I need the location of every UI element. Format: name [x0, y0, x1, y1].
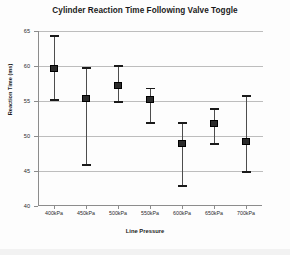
whisker-line: [246, 96, 247, 172]
x-axis-tick-mark: [246, 206, 247, 209]
gridline: [39, 66, 263, 67]
whisker-cap-upper: [146, 88, 155, 90]
whisker-cap-lower: [178, 185, 187, 187]
whisker-line: [150, 88, 151, 122]
whisker-line: [182, 123, 183, 186]
whisker-cap-lower: [114, 101, 123, 103]
whisker-cap-lower: [210, 143, 219, 145]
x-axis-tick-mark: [182, 206, 183, 209]
y-axis-tick-mark: [34, 31, 38, 32]
x-axis-tick-label: 700kPa: [226, 210, 266, 217]
whisker-cap-upper: [114, 65, 123, 67]
y-axis-tick-mark: [34, 101, 38, 102]
chart-title: Cylinder Reaction Time Following Valve T…: [0, 6, 290, 16]
gridline: [39, 31, 263, 32]
x-axis-tick-mark: [54, 206, 55, 209]
x-axis-tick-mark: [118, 206, 119, 209]
whisker-cap-lower: [242, 171, 251, 173]
data-marker: [178, 140, 185, 147]
data-marker: [146, 96, 153, 103]
y-axis-tick-label: 50: [4, 133, 30, 139]
y-axis-tick-label: 55: [4, 98, 30, 104]
whisker-cap-lower: [146, 122, 155, 124]
x-axis-tick-mark: [214, 206, 215, 209]
whisker-cap-upper: [50, 35, 59, 37]
y-axis-tick-mark: [34, 66, 38, 67]
whisker-cap-upper: [178, 122, 187, 124]
data-marker: [210, 120, 217, 127]
y-axis-tick-label: 65: [4, 28, 30, 34]
whisker-cap-upper: [242, 95, 251, 97]
y-axis-tick-label: 45: [4, 168, 30, 174]
data-marker: [114, 82, 121, 89]
whisker-cap-lower: [50, 99, 59, 101]
y-axis-tick-mark: [34, 136, 38, 137]
x-axis-tick-mark: [150, 206, 151, 209]
whisker-cap-lower: [82, 164, 91, 166]
gridline: [39, 136, 263, 137]
data-marker: [50, 65, 57, 72]
x-axis-tick-mark: [86, 206, 87, 209]
page-edge-artifact: [0, 249, 290, 255]
whisker-cap-upper: [210, 108, 219, 110]
y-axis-tick-mark: [34, 171, 38, 172]
y-axis-tick-label: 40: [4, 203, 30, 209]
gridline: [39, 171, 263, 172]
chart-container: Cylinder Reaction Time Following Valve T…: [0, 0, 290, 255]
data-marker: [242, 138, 249, 145]
y-axis-tick-mark: [34, 206, 38, 207]
x-axis-title: Line Pressure: [0, 228, 290, 234]
y-axis-title: Reaction Time (ms): [7, 50, 14, 130]
y-axis-tick-label: 60: [4, 63, 30, 69]
data-marker: [82, 95, 89, 102]
whisker-cap-upper: [82, 67, 91, 69]
whisker-line: [86, 68, 87, 165]
